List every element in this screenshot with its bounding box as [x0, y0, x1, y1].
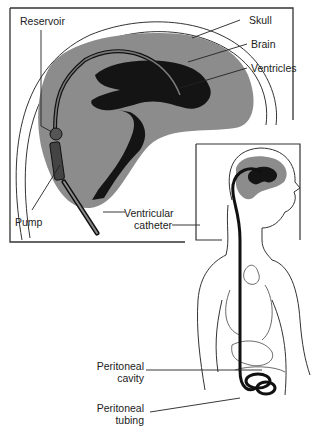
- label-ventricles: Ventricles: [251, 62, 297, 74]
- label-reservoir: Reservoir: [20, 15, 65, 27]
- label-pump: Pump: [15, 216, 42, 228]
- label-peritoneal-tubing: Peritoneal tubing: [86, 402, 144, 426]
- label-skull: Skull: [249, 14, 272, 26]
- label-ventricular-catheter: Ventricular catheter: [124, 207, 172, 231]
- label-brain: Brain: [251, 38, 276, 50]
- organs: [226, 265, 285, 372]
- shunt-catheter-small: [233, 169, 262, 390]
- leader-lines-bottom: [146, 370, 262, 412]
- label-peritoneal-cavity: Peritoneal cavity: [86, 360, 144, 384]
